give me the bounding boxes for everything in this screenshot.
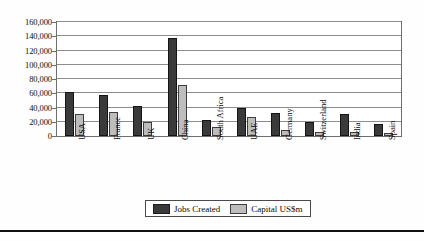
- legend-label: Capital US$m: [251, 204, 302, 214]
- bar-jobs-created: [340, 114, 349, 136]
- bar-group: [57, 22, 91, 136]
- bar-jobs-created: [305, 122, 314, 136]
- bar-jobs-created: [374, 124, 383, 136]
- bars-layer: [57, 22, 401, 136]
- x-axis-label: France: [113, 117, 121, 140]
- bottom-divider: [0, 230, 424, 232]
- bar-chart-figure: 020,00040,00060,00080,000100,000120,0001…: [0, 0, 424, 241]
- y-axis: 020,00040,00060,00080,000100,000120,0001…: [0, 21, 52, 137]
- x-axis-label: Switzerland: [319, 99, 327, 140]
- bar-jobs-created: [99, 95, 108, 136]
- x-axis-labels: USAFranceUKChinaSouth AfricaUAEGermanySw…: [57, 138, 401, 184]
- legend-item: Capital US$m: [230, 204, 302, 214]
- legend-item: Jobs Created: [153, 204, 220, 214]
- bar-jobs-created: [133, 106, 142, 136]
- y-axis-tick-label: 40,000: [29, 104, 52, 112]
- x-axis-label: South Africa: [216, 97, 224, 140]
- bar-group: [126, 22, 160, 136]
- bar-group: [160, 22, 194, 136]
- x-axis-label: China: [181, 120, 189, 140]
- bar-group: [332, 22, 366, 136]
- dark-square-swatch: [153, 204, 170, 214]
- bar-jobs-created: [202, 120, 211, 136]
- x-axis-label: Spain: [388, 121, 396, 140]
- y-axis-tick-label: 60,000: [29, 89, 52, 97]
- y-axis-tick-label: 120,000: [25, 47, 52, 55]
- bar-jobs-created: [237, 108, 246, 137]
- x-axis-label: India: [353, 123, 361, 140]
- y-axis-tick-label: 160,000: [25, 18, 52, 26]
- bar-group: [367, 22, 401, 136]
- x-axis-label: UK: [147, 128, 155, 140]
- y-axis-tick-label: 20,000: [29, 118, 52, 126]
- bar-jobs-created: [65, 92, 74, 136]
- chart-legend: Jobs CreatedCapital US$m: [145, 200, 311, 217]
- x-axis-label: Germany: [285, 108, 293, 140]
- bar-group: [229, 22, 263, 136]
- bar-jobs-created: [271, 113, 280, 137]
- bar-jobs-created: [168, 38, 177, 136]
- y-axis-tick-label: 80,000: [29, 75, 52, 83]
- x-axis-label: UAE: [250, 123, 258, 140]
- legend-label: Jobs Created: [174, 204, 220, 214]
- light-square-swatch: [230, 204, 247, 214]
- x-axis-label: USA: [78, 123, 86, 140]
- y-axis-tick-label: 140,000: [25, 32, 52, 40]
- y-axis-tick-label: 100,000: [25, 61, 52, 69]
